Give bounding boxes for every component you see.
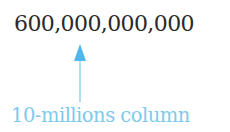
up-arrow-icon: [70, 44, 90, 102]
number-value: 600,000,000,000: [14, 10, 194, 38]
column-label: 10-millions column: [11, 104, 190, 128]
